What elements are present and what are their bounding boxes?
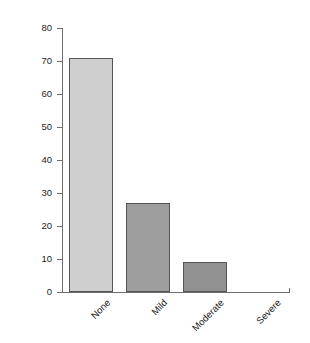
x-axis-line: [62, 292, 290, 293]
y-axis-tick-label: 50: [18, 122, 52, 132]
y-axis-tick-label-text: 70: [18, 56, 52, 66]
y-axis-tick: [57, 292, 62, 293]
plot-area: 01020304050607080 NoneMildModerateSevere: [0, 0, 310, 343]
bar-chart: 01020304050607080 NoneMildModerateSevere: [0, 0, 310, 343]
y-axis-tick-label-text: 0: [18, 287, 52, 297]
x-axis-label-moderate: Moderate: [190, 297, 226, 333]
y-axis-tick-label: 80: [18, 23, 52, 33]
y-axis-tick-label-text: 40: [18, 155, 52, 165]
bar-mild[interactable]: [126, 203, 170, 292]
y-axis-tick-label-text: 10: [18, 254, 52, 264]
x-axis-label-severe: Severe: [254, 297, 283, 326]
y-axis-tick: [57, 226, 62, 227]
y-axis-tick: [57, 259, 62, 260]
y-axis-tick-label: 40: [18, 155, 52, 165]
y-axis-tick-label: 20: [18, 221, 52, 231]
bar-none[interactable]: [69, 58, 113, 292]
y-axis-tick-label: 10: [18, 254, 52, 264]
y-axis-tick: [57, 160, 62, 161]
x-axis-end-tick: [289, 288, 290, 293]
y-axis-tick: [57, 193, 62, 194]
y-axis-tick-label-text: 80: [18, 23, 52, 33]
y-axis-tick-label-text: 60: [18, 89, 52, 99]
y-axis-tick-label: 60: [18, 89, 52, 99]
bar-moderate[interactable]: [183, 262, 227, 292]
y-axis-tick: [57, 61, 62, 62]
x-axis-label-mild: Mild: [149, 297, 169, 317]
y-axis-tick-label: 0: [18, 287, 52, 297]
y-axis-tick-label: 30: [18, 188, 52, 198]
y-axis-tick: [57, 127, 62, 128]
y-axis-tick: [57, 94, 62, 95]
y-axis-line: [62, 28, 63, 292]
y-axis-tick-label-text: 30: [18, 188, 52, 198]
y-axis-tick-label-text: 20: [18, 221, 52, 231]
x-axis-label-none: None: [88, 297, 112, 321]
y-axis-tick: [57, 28, 62, 29]
y-axis-tick-label-text: 50: [18, 122, 52, 132]
y-axis-tick-label: 70: [18, 56, 52, 66]
